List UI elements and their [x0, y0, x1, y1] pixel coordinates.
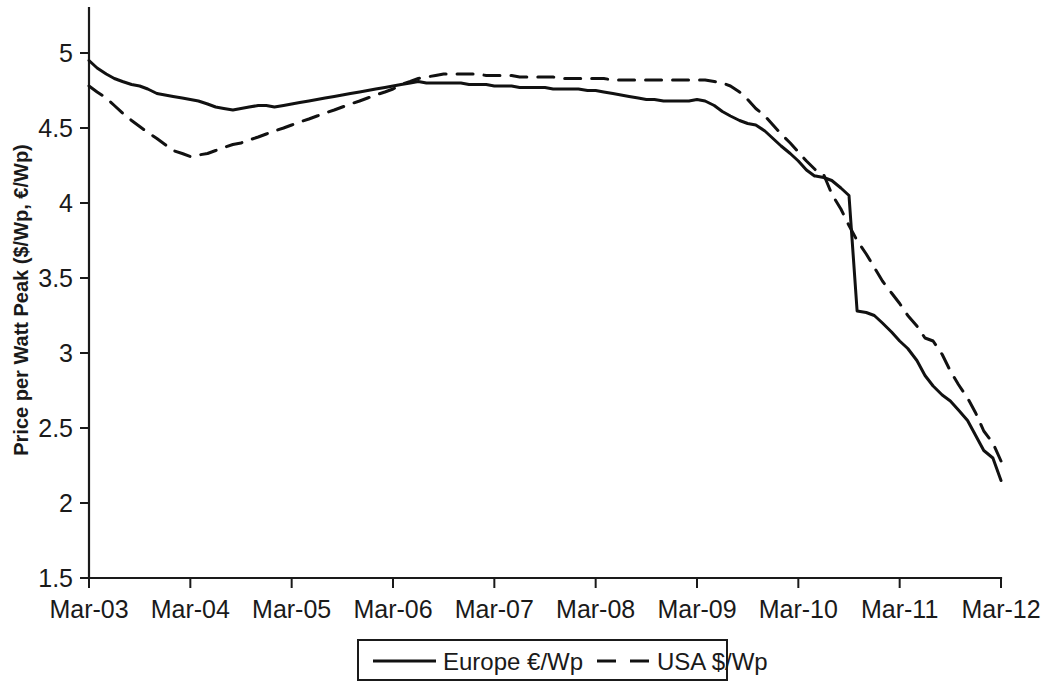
x-tick-label: Mar-03 — [49, 595, 128, 623]
series-path-europe — [89, 61, 1001, 481]
x-tick-label: Mar-06 — [353, 595, 432, 623]
x-tick-label: Mar-09 — [657, 595, 736, 623]
legend-label-usa: USA $/Wp — [657, 648, 768, 675]
chart-container: Price per Watt Peak ($/Wp, €/Wp) 1.522.5… — [0, 0, 1055, 693]
y-tick-label: 4 — [59, 189, 73, 217]
y-tick-label: 2.5 — [38, 414, 73, 442]
series-path-usa — [89, 74, 1001, 461]
y-tick-label: 3 — [59, 339, 73, 367]
x-tick-label: Mar-07 — [455, 595, 534, 623]
y-tick-label: 4.5 — [38, 114, 73, 142]
y-axis-ticks: 1.522.533.544.55 — [38, 39, 89, 592]
x-tick-label: Mar-11 — [861, 595, 938, 623]
y-tick-label: 5 — [59, 39, 73, 67]
x-tick-label: Mar-04 — [151, 595, 230, 623]
x-tick-label: Mar-10 — [759, 595, 838, 623]
line-chart: Price per Watt Peak ($/Wp, €/Wp) 1.522.5… — [0, 0, 1055, 693]
y-tick-label: 3.5 — [38, 264, 73, 292]
x-tick-label: Mar-12 — [961, 595, 1040, 623]
y-axis-title-text: Price per Watt Peak ($/Wp, €/Wp) — [10, 144, 32, 456]
chart-legend: Europe €/Wp USA $/Wp — [358, 640, 768, 680]
series-paths — [89, 61, 1001, 481]
x-tick-label: Mar-08 — [556, 595, 635, 623]
y-tick-label: 2 — [59, 489, 73, 517]
x-axis-ticks: Mar-03Mar-04Mar-05Mar-06Mar-07Mar-08Mar-… — [49, 578, 1040, 623]
y-tick-label: 1.5 — [38, 564, 73, 592]
y-axis-title: Price per Watt Peak ($/Wp, €/Wp) — [10, 144, 32, 456]
x-tick-label: Mar-05 — [252, 595, 331, 623]
legend-label-europe: Europe €/Wp — [443, 648, 583, 675]
